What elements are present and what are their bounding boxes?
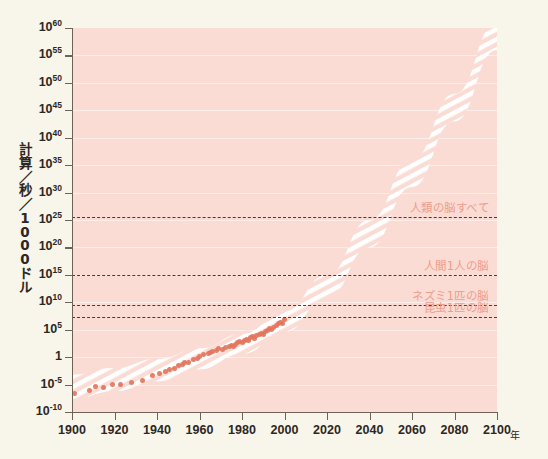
y-tick-label: 1045 xyxy=(0,102,62,116)
y-tick xyxy=(65,330,73,331)
data-point xyxy=(101,385,106,390)
gridline xyxy=(72,220,497,221)
x-tick-label: 2020 xyxy=(313,423,341,437)
y-tick-label: 10-5 xyxy=(0,377,62,391)
y-tick-label: 1055 xyxy=(0,47,62,61)
y-tick xyxy=(65,28,73,29)
data-point xyxy=(180,362,185,367)
data-point xyxy=(235,340,240,345)
data-point xyxy=(259,331,264,336)
threshold-line xyxy=(72,275,497,276)
data-point xyxy=(150,373,155,378)
x-tick xyxy=(242,412,243,420)
data-point xyxy=(172,366,177,371)
y-tick xyxy=(65,193,73,194)
gridline xyxy=(72,357,497,358)
y-tick-label: 10-10 xyxy=(0,404,62,418)
x-tick-label: 2080 xyxy=(441,423,469,437)
gridline xyxy=(72,138,497,139)
data-point xyxy=(278,320,283,325)
gridline xyxy=(72,55,497,56)
gridline xyxy=(72,110,497,111)
data-point xyxy=(274,323,279,328)
y-tick xyxy=(65,55,73,56)
data-point xyxy=(220,347,225,352)
y-tick xyxy=(65,247,73,248)
threshold-label: 昆虫1匹の脳 xyxy=(424,299,489,315)
y-tick xyxy=(65,220,73,221)
data-point xyxy=(186,360,191,365)
y-tick xyxy=(65,385,73,386)
data-point xyxy=(242,338,247,343)
x-tick xyxy=(370,412,371,420)
y-tick-label: 1 xyxy=(0,349,62,363)
data-point xyxy=(182,360,187,365)
y-tick-label: 1060 xyxy=(0,20,62,34)
data-point xyxy=(87,388,92,393)
data-point xyxy=(257,332,262,337)
data-point xyxy=(280,321,285,326)
x-tick-label: 1900 xyxy=(58,423,86,437)
data-point xyxy=(240,340,245,345)
x-tick xyxy=(497,412,498,420)
x-tick xyxy=(115,412,116,420)
chart-root: 人類の脳すべて人間1人の脳ネズミ1匹の脳昆虫1匹の脳 1060105510501… xyxy=(0,0,548,459)
y-tick xyxy=(65,138,73,139)
data-point xyxy=(227,344,232,349)
data-point xyxy=(261,332,266,337)
x-tick xyxy=(285,412,286,420)
x-tick-label: 1960 xyxy=(186,423,214,437)
data-point xyxy=(250,334,255,339)
data-point xyxy=(244,337,249,342)
data-point xyxy=(233,342,238,347)
gridline xyxy=(72,83,497,84)
data-point xyxy=(214,348,219,353)
plot-area: 人類の脳すべて人間1人の脳ネズミ1匹の脳昆虫1匹の脳 xyxy=(72,28,497,412)
data-point xyxy=(231,344,236,349)
threshold-label: 人間1人の脳 xyxy=(424,257,489,273)
y-tick-label: 1050 xyxy=(0,75,62,89)
data-point xyxy=(252,336,257,341)
x-tick-label: 2040 xyxy=(356,423,384,437)
data-point xyxy=(140,378,145,383)
x-tick xyxy=(200,412,201,420)
data-point xyxy=(176,363,181,368)
data-point xyxy=(276,321,281,326)
y-axis-title: 計算／秒／1000ドル xyxy=(14,143,36,294)
data-point xyxy=(254,333,259,338)
data-point xyxy=(163,369,168,374)
y-tick xyxy=(65,83,73,84)
gridline xyxy=(72,193,497,194)
x-tick-label: 2060 xyxy=(398,423,426,437)
gridline xyxy=(72,165,497,166)
y-tick xyxy=(65,275,73,276)
threshold-line xyxy=(72,217,497,218)
y-axis-title-char: ル xyxy=(14,281,36,295)
y-tick xyxy=(65,357,73,358)
threshold-line xyxy=(72,317,497,318)
x-tick xyxy=(455,412,456,420)
x-tick xyxy=(412,412,413,420)
x-tick-label: 1940 xyxy=(143,423,171,437)
x-axis-unit-label: 年 xyxy=(510,427,520,442)
data-point xyxy=(237,339,242,344)
data-point xyxy=(248,335,253,340)
x-tick xyxy=(327,412,328,420)
y-tick xyxy=(65,110,73,111)
x-tick-label: 1980 xyxy=(228,423,256,437)
x-tick-label: 1920 xyxy=(101,423,129,437)
data-point xyxy=(229,343,234,348)
gridline xyxy=(72,330,497,331)
data-point xyxy=(208,350,213,355)
threshold-label: 人類の脳すべて xyxy=(410,199,490,215)
x-tick-label: 2100 xyxy=(483,423,511,437)
data-point xyxy=(206,351,211,356)
y-tick-label: 105 xyxy=(0,322,62,336)
data-point xyxy=(157,371,162,376)
x-tick-label: 2000 xyxy=(271,423,299,437)
data-point xyxy=(216,346,221,351)
data-point xyxy=(246,338,251,343)
data-point xyxy=(167,367,172,372)
gridline xyxy=(72,385,497,386)
data-point xyxy=(210,349,215,354)
